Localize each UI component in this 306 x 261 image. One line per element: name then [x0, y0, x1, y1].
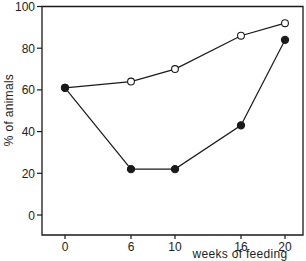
filled-circle-marker	[237, 122, 244, 129]
y-axis-ticks: 020406080100	[15, 0, 42, 223]
y-tick-label: 0	[28, 209, 35, 223]
y-tick-label: 40	[22, 125, 36, 139]
open-circle-marker	[282, 20, 289, 27]
series-line	[65, 23, 285, 88]
axis-frame	[42, 7, 303, 236]
plot-border	[42, 7, 303, 236]
y-tick-label: 80	[22, 42, 36, 56]
series-open-circle	[62, 20, 289, 91]
filled-circle-marker	[61, 84, 68, 91]
line-chart: 020406080100 06101620 % of animals weeks…	[0, 0, 306, 261]
y-tick-label: 100	[15, 0, 35, 14]
x-axis-label: weeks of feeding	[192, 247, 288, 261]
filled-circle-marker	[171, 166, 178, 173]
y-tick-label: 60	[22, 83, 36, 97]
x-tick-label: 6	[128, 240, 135, 254]
x-tick-label: 10	[168, 240, 182, 254]
y-axis-label: % of animals	[2, 74, 16, 146]
y-tick-label: 20	[22, 167, 36, 181]
data-series	[61, 20, 288, 173]
filled-circle-marker	[127, 166, 134, 173]
series-line	[65, 40, 285, 169]
series-filled-circle	[61, 36, 288, 172]
open-circle-marker	[128, 78, 135, 85]
open-circle-marker	[238, 32, 245, 39]
open-circle-marker	[172, 66, 179, 73]
filled-circle-marker	[281, 36, 288, 43]
x-tick-label: 0	[62, 240, 69, 254]
